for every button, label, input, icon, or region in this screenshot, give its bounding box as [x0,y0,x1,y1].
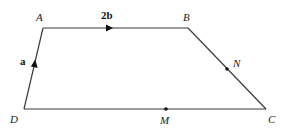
arrow-icon-ab [106,25,113,32]
label-m-point: M [159,114,170,126]
arrow-icon-da [31,60,38,69]
label-c-vertex: C [268,113,276,125]
edge-da [24,28,43,109]
point-n [225,67,229,71]
label-vector-a: a [20,55,26,67]
point-m [164,107,168,111]
label-a-vertex: A [35,11,43,23]
label-vector-2b: 2b [101,9,113,21]
label-d-vertex: D [9,113,18,125]
trapezium-diagram: A B C D M N a 2b [0,0,292,130]
label-n-point: N [232,57,241,69]
label-b-vertex: B [183,11,190,23]
